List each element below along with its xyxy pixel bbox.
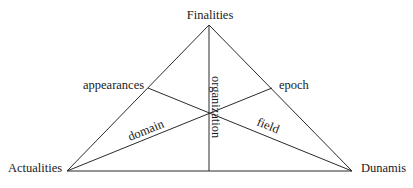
line-label-domain: domain: [126, 116, 167, 143]
vertex-label-actualities: Actualities: [8, 161, 62, 175]
point-label-appearances: appearances: [83, 78, 144, 92]
line-epoch-actualities: [67, 88, 272, 171]
triangle-diagram: Finalities Actualities Dunamis appearanc…: [0, 0, 413, 188]
point-label-epoch: epoch: [279, 78, 310, 92]
vertex-label-dunamis: Dunamis: [361, 161, 406, 175]
line-label-organization: organization: [209, 76, 223, 139]
edge-finalities-dunamis: [209, 25, 352, 171]
line-appearances-dunamis: [148, 88, 352, 171]
vertex-label-finalities: Finalities: [187, 8, 234, 22]
edge-finalities-actualities: [67, 25, 209, 171]
